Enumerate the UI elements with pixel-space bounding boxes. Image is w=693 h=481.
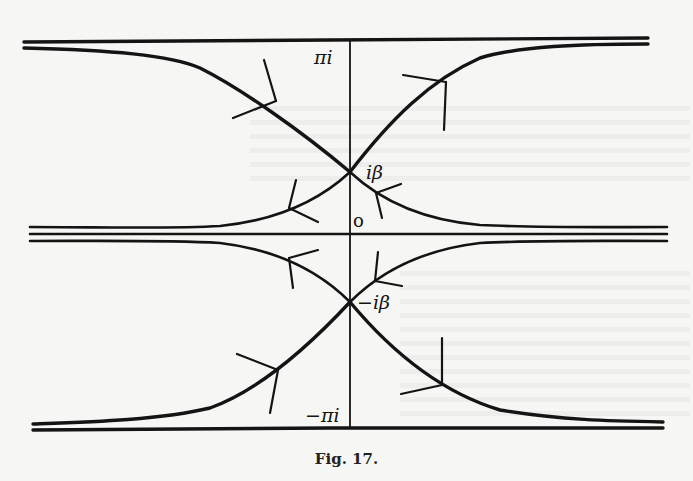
line-minus-pi-i — [33, 428, 663, 430]
contour-upper-left — [24, 48, 350, 172]
contour-diagram — [0, 0, 693, 481]
label-origin: o — [353, 212, 364, 230]
arrow-upper-right — [403, 75, 446, 130]
label-minus-i-beta: −iβ — [357, 293, 390, 312]
contour-minus-ibeta-upper-left — [30, 241, 350, 302]
contour-lower-right — [350, 302, 663, 422]
label-i-beta: iβ — [366, 163, 383, 182]
label-pi-i: πi — [314, 48, 333, 67]
contour-lower-left — [33, 302, 350, 424]
figure-17: πi iβ o −iβ −πi Fig. 17. — [0, 0, 693, 481]
figure-caption: Fig. 17. — [0, 450, 693, 468]
contour-ibeta-lower-left — [30, 172, 350, 228]
arrow-minus-ibeta-upper-right — [375, 252, 402, 286]
contour-upper-right — [350, 44, 648, 172]
arrow-ibeta-lower-left — [289, 180, 318, 222]
arrow-lower-right — [401, 338, 442, 394]
contour-ibeta-lower-right — [350, 172, 667, 227]
contour-minus-ibeta-upper-right — [350, 241, 667, 302]
line-pi-i — [24, 38, 648, 42]
label-minus-pi-i: −πi — [305, 406, 339, 425]
